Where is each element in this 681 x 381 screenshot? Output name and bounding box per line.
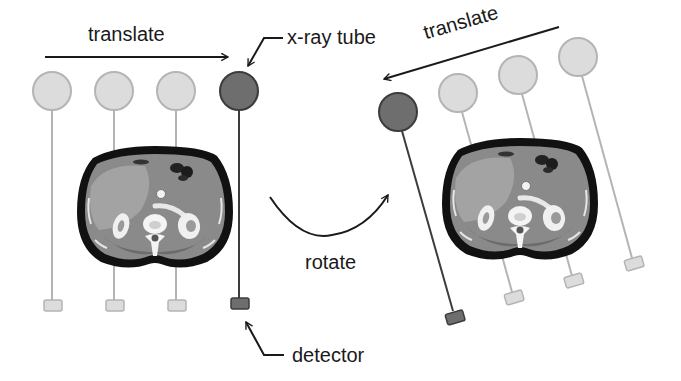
right-panel <box>379 27 644 325</box>
ghost-detector-r4 <box>624 256 644 272</box>
ghost-xray-tube-r3 <box>499 56 537 94</box>
ct-slice-right <box>442 138 598 260</box>
ghost-detector-2 <box>106 300 124 311</box>
ct-translate-rotate-diagram <box>0 0 681 381</box>
rotate-label: rotate <box>305 252 356 272</box>
detector-label: detector <box>292 345 364 365</box>
translate-label-left: translate <box>88 24 165 44</box>
ghost-detector-3 <box>168 300 186 311</box>
ghost-xray-tube-1 <box>33 72 71 110</box>
ghost-detector-1 <box>44 300 62 311</box>
left-panel <box>33 38 284 355</box>
ghost-xray-tube-r4 <box>559 38 597 76</box>
active-detector-right <box>445 310 465 326</box>
ct-slice-left <box>77 146 233 268</box>
active-xray-tube-left <box>220 72 258 110</box>
ghost-xray-tube-3 <box>157 72 195 110</box>
active-xray-tube-right <box>379 93 417 131</box>
ghost-detector-r3 <box>564 273 584 289</box>
active-detector-left <box>231 298 249 309</box>
ghost-detector-r2 <box>504 290 524 306</box>
rotate-arrow <box>270 195 388 236</box>
detector-callout-arrow <box>246 322 284 355</box>
xray-tube-callout-arrow <box>248 38 283 66</box>
ghost-xray-tube-r2 <box>439 74 477 112</box>
xray-tube-label: x-ray tube <box>287 27 376 47</box>
ghost-xray-tube-2 <box>95 72 133 110</box>
